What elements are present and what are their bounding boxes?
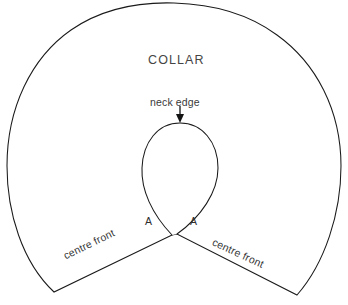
neck-edge-label: neck edge (150, 97, 200, 108)
pattern-drawing-canvas (0, 0, 348, 305)
notch-label-a-right: A (190, 216, 197, 227)
collar-pattern-diagram: COLLAR neck edge A A centre front centre… (0, 0, 348, 305)
collar-title-label: COLLAR (148, 54, 205, 67)
notch-label-a-left: A (145, 216, 152, 227)
